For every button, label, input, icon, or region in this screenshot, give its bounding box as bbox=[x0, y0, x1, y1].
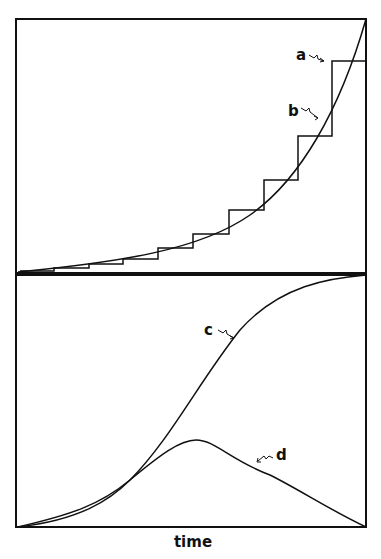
pointer-a-icon bbox=[309, 55, 324, 61]
label-c: c bbox=[204, 321, 213, 339]
bell-curve-d bbox=[18, 440, 366, 527]
x-axis-label: time bbox=[174, 533, 212, 551]
step-curve-a bbox=[20, 61, 366, 271]
pointer-d-icon bbox=[258, 456, 273, 461]
label-d: d bbox=[276, 446, 287, 464]
exponential-curve-b bbox=[18, 19, 366, 272]
arrowhead-b-icon bbox=[314, 116, 318, 120]
figure: a b c d time bbox=[0, 0, 381, 559]
sigmoid-curve-c bbox=[18, 275, 366, 527]
arrowhead-c-icon bbox=[230, 336, 234, 339]
label-a: a bbox=[296, 46, 306, 64]
label-b: b bbox=[288, 102, 299, 120]
top-panel-frame bbox=[16, 19, 366, 273]
